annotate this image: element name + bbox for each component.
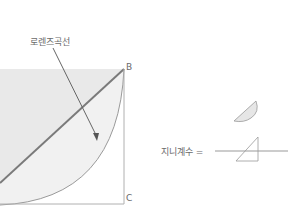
lorenz-diagram: · · · · · · · · · · · · 로렌즈곡선 B C 지니계수 = <box>0 0 299 207</box>
lorenz-curve-graphic <box>0 0 299 207</box>
lorenz-curve-label: 로렌즈곡선 <box>30 35 70 48</box>
point-c-label: C <box>126 193 132 203</box>
gini-formula-label: 지니계수 = <box>161 145 203 158</box>
denominator-triangle-icon <box>236 137 258 161</box>
numerator-lens-icon <box>234 101 257 122</box>
point-b-label: B <box>126 62 132 72</box>
